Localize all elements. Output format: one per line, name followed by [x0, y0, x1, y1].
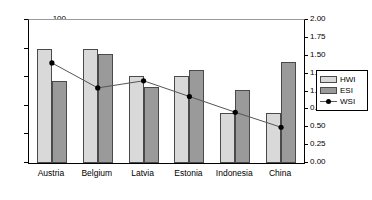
category-label: Indonesia [216, 168, 253, 178]
wsi-marker: WSI: 1.05 [95, 85, 100, 90]
wsi-marker: WSI: 0.93 [187, 94, 192, 99]
category-label: Austria [38, 168, 64, 178]
right-axis-tick-label: 0.00 [310, 158, 340, 166]
category-label: Belgium [81, 168, 112, 178]
wsi-marker: WSI: 1.15 [141, 78, 146, 83]
right-axis-tick-label: 0.25 [310, 140, 340, 148]
right-axis-tick-label: 1.50 [310, 51, 340, 59]
legend-item-hwi: HWI [320, 74, 365, 85]
plot-area: WSI: 1.40WSI: 1.05WSI: 1.15WSI: 0.93WSI:… [28, 19, 305, 164]
wsi-line [52, 63, 281, 127]
category-label: China [269, 168, 291, 178]
legend-label: HWI [340, 75, 356, 84]
category-label: Estonia [174, 168, 202, 178]
legend-item-esi: ESI [320, 85, 365, 96]
chart-legend: HWIESIWSI [316, 70, 368, 111]
legend-swatch-icon [320, 76, 337, 83]
legend-swatch-icon [320, 97, 337, 106]
wsi-marker: WSI: 0.50 [278, 125, 283, 130]
legend-swatch-icon [320, 87, 337, 94]
wsi-line-series: WSI: 1.40WSI: 1.05WSI: 1.15WSI: 0.93WSI:… [29, 20, 304, 163]
right-axis-tick-label: 2.00 [310, 15, 340, 23]
legend-label: ESI [340, 86, 353, 95]
legend-label: WSI [340, 97, 355, 106]
right-axis-tick-label: 0.50 [310, 122, 340, 130]
right-axis-tick-label: 1.75 [310, 33, 340, 41]
wsi-marker: WSI: 1.40 [49, 60, 54, 65]
legend-item-wsi: WSI [320, 96, 365, 107]
chart-container: 020406080100 0.000.250.500.751.001.251.5… [0, 0, 372, 200]
wsi-marker: WSI: 0.71 [233, 110, 238, 115]
category-label: Latvia [131, 168, 154, 178]
